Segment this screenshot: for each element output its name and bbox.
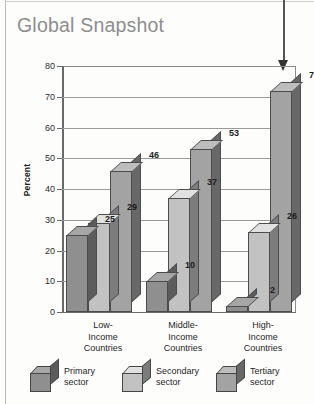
x-category-label-line: Middle- xyxy=(143,320,223,332)
bar-side-face xyxy=(291,73,301,303)
page-title: Global Snapshot xyxy=(17,14,164,37)
x-category-label-line: Countries xyxy=(63,343,143,355)
y-tick-label: 50 xyxy=(29,153,55,163)
bar-value-label: 37 xyxy=(197,177,217,187)
y-tick-label: 0 xyxy=(29,307,55,317)
legend-label-line: sector xyxy=(64,377,95,388)
gridline xyxy=(62,158,296,159)
legend-label-line: sector xyxy=(250,377,280,388)
legend: PrimarysectorSecondarysectorTertiarysect… xyxy=(30,358,314,402)
y-tick-label: 60 xyxy=(29,123,55,133)
y-tick-label-wrap: 70 xyxy=(26,97,55,98)
bar-value-label: 26 xyxy=(277,211,297,221)
y-tick-mark xyxy=(57,66,62,67)
y-tick-mark xyxy=(57,189,62,190)
y-tick-mark xyxy=(57,312,62,313)
y-tick-label: 30 xyxy=(29,215,55,225)
x-category-label-line: Income xyxy=(143,332,223,344)
gridline xyxy=(62,97,296,98)
x-category-label-line: High- xyxy=(223,320,303,332)
legend-swatch-cube-icon xyxy=(216,366,246,392)
legend-cube-side-face xyxy=(142,358,151,385)
y-tick-mark xyxy=(57,281,62,282)
bar-value-label: 53 xyxy=(219,128,239,138)
legend-cube-front-face xyxy=(30,373,51,392)
x-category-label-line: Income xyxy=(223,332,303,344)
x-category-label-line: Income xyxy=(63,332,143,344)
x-axis-line xyxy=(62,312,296,313)
y-tick-label-wrap: 20 xyxy=(26,251,55,252)
bar-value-label: 29 xyxy=(117,202,137,212)
y-tick-mark xyxy=(57,128,62,129)
y-tick-label-wrap: 60 xyxy=(26,128,55,129)
y-tick-label: 20 xyxy=(29,246,55,256)
gridline xyxy=(62,128,296,129)
y-tick-label-wrap: 10 xyxy=(26,281,55,282)
legend-label-line: sector xyxy=(156,377,199,388)
y-axis-title: Percent xyxy=(22,150,32,210)
x-category-label-line: Countries xyxy=(223,343,303,355)
bar-side-face xyxy=(211,131,221,303)
legend-label: Tertiarysector xyxy=(250,366,280,388)
y-tick-label-wrap: 0 xyxy=(26,312,55,313)
legend-label-line: Primary xyxy=(64,366,95,377)
page-top-rule xyxy=(5,1,314,2)
x-category-label: High-IncomeCountries xyxy=(223,320,303,355)
legend-cube-side-face xyxy=(236,358,245,385)
bar-0-0[interactable] xyxy=(66,226,88,312)
legend-label: Primarysector xyxy=(64,366,95,388)
legend-swatch-cube-icon xyxy=(30,366,60,392)
y-tick-mark xyxy=(57,97,62,98)
legend-cube-front-face xyxy=(122,373,143,392)
x-category-label: Middle-IncomeCountries xyxy=(143,320,223,355)
y-tick-mark xyxy=(57,220,62,221)
x-category-label-line: Countries xyxy=(143,343,223,355)
y-tick-label: 70 xyxy=(29,92,55,102)
bar-0-1[interactable] xyxy=(146,272,168,312)
x-category-label: Low-IncomeCountries xyxy=(63,320,143,355)
y-tick-mark xyxy=(57,251,62,252)
y-tick-mark xyxy=(57,158,62,159)
legend-cube-front-face xyxy=(216,373,237,392)
bar-value-label: 10 xyxy=(175,260,195,270)
bar-front-face xyxy=(66,235,88,312)
x-category-label-line: Low- xyxy=(63,320,143,332)
legend-label-line: Tertiary xyxy=(250,366,280,377)
y-tick-label: 10 xyxy=(29,276,55,286)
bar-value-label: 2 xyxy=(255,285,275,295)
y-tick-label: 40 xyxy=(29,184,55,194)
legend-cube-side-face xyxy=(50,358,59,385)
y-tick-label: 80 xyxy=(29,61,55,71)
legend-swatch-cube-icon xyxy=(122,366,152,392)
bar-front-face xyxy=(226,306,248,312)
legend-label-line: Secondary xyxy=(156,366,199,377)
legend-label: Secondarysector xyxy=(156,366,199,388)
page-left-rule xyxy=(5,0,6,404)
y-tick-label-wrap: 30 xyxy=(26,220,55,221)
bar-side-face xyxy=(131,153,141,303)
bar-front-face xyxy=(146,281,168,312)
bar-value-label: 46 xyxy=(139,150,159,160)
bar-value-label: 72 xyxy=(299,70,314,80)
bar-side-face xyxy=(189,180,199,303)
y-tick-label-wrap: 80 xyxy=(26,66,55,67)
annotation-arrow-line xyxy=(283,0,285,63)
bar-value-label: 25 xyxy=(95,214,115,224)
bar-0-2[interactable] xyxy=(226,297,248,312)
